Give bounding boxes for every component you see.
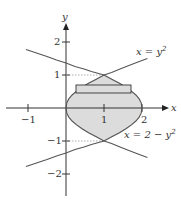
x-tick-neg1: −1 — [21, 114, 36, 125]
x-tick-2: 2 — [141, 114, 147, 125]
y-axis-label: y — [61, 11, 68, 22]
y-tick-1: 1 — [54, 69, 60, 80]
y-axis-arrow-icon — [63, 23, 69, 30]
y-tick-neg2: −2 — [47, 168, 62, 179]
x-tick-1: 1 — [101, 114, 107, 125]
approximating-rectangle — [76, 85, 131, 93]
y-tick-2: 2 — [54, 36, 60, 47]
y-tick-neg1: −1 — [47, 135, 62, 146]
region-figure: y x −1 1 2 2 1 −1 −2 x = y2 x = 2 − y2 — [0, 0, 181, 201]
label-x-eq-2-minus-y2: x = 2 − y2 — [124, 128, 176, 140]
label-x-eq-y2: x = y2 — [136, 45, 167, 57]
x-axis-arrow-icon — [162, 105, 169, 111]
x-axis-label: x — [171, 102, 177, 113]
